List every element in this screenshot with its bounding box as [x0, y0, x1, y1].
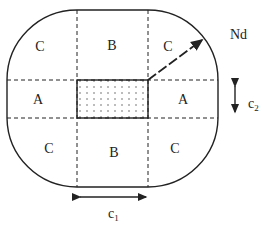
region-middle-left-label: A — [33, 92, 44, 107]
region-bottom-center-label: B — [109, 145, 118, 160]
c2-label: c2 — [248, 96, 259, 113]
region-top-center-label: B — [107, 38, 116, 53]
region-top-left-label: C — [35, 39, 44, 54]
region-middle-right-label: A — [178, 92, 189, 107]
region-bottom-left-label: C — [44, 141, 53, 156]
critical-perimeter-diagram: C B C A A C B C Nd c2 c1 — [0, 0, 262, 231]
region-bottom-right-label: C — [170, 141, 179, 156]
nd-arrow-icon — [148, 40, 202, 80]
column-area — [77, 80, 148, 118]
region-top-right-label: C — [163, 39, 172, 54]
nd-label: Nd — [230, 27, 247, 42]
c1-label: c1 — [108, 206, 119, 223]
